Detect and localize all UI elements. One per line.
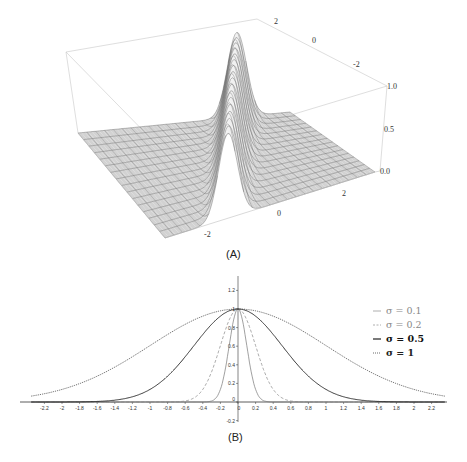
y-tick-label: -0.2	[226, 418, 235, 424]
panel-b-label: (B)	[228, 431, 243, 443]
y-tick-label: 0.2	[228, 380, 235, 386]
x-tick-label: -1.8	[75, 405, 84, 411]
svg-text:σ = 0.1: σ = 0.1	[386, 305, 422, 316]
x-tick-label: 2	[413, 405, 416, 411]
x-tick-label: -1	[148, 405, 153, 411]
panel-a-label: (A)	[226, 248, 241, 260]
y-tick-label: 1.2	[228, 287, 235, 293]
x-tick-label: -0.4	[198, 405, 207, 411]
x-tick-label: 0.6	[287, 405, 294, 411]
svg-text:σ = 0.5: σ = 0.5	[386, 333, 424, 344]
y-tick-label: 0	[312, 36, 316, 45]
y-tick-label: 0	[232, 396, 235, 402]
x-tick-label: -2	[60, 405, 65, 411]
x-tick-label: -1.2	[128, 405, 137, 411]
x-tick-label: 1.8	[393, 405, 400, 411]
legend-item-sigma-0.5: σ = 0.5	[373, 333, 424, 344]
z-tick-label: 0.0	[380, 167, 390, 176]
x-tick-label: 0	[277, 209, 281, 218]
y-axis-ticks: -0.200.20.40.60.811.2	[226, 287, 238, 423]
x-tick-label: 1.2	[340, 405, 347, 411]
figure: 2 0 -2 1.0 0.5 0.0 -2 0 2 (A) -2.2-2-1.8…	[0, 0, 467, 462]
x-tick-label: -2.2	[40, 405, 49, 411]
x-tick-label: 1.6	[375, 405, 382, 411]
legend: σ = 0.1 σ = 0.2 σ = 0.5 σ = 1	[373, 305, 424, 358]
y-tick-label: -2	[353, 60, 360, 69]
x-tick-label: -1.6	[93, 405, 102, 411]
x-tick-label: -2	[204, 230, 211, 239]
legend-item-sigma-0.1: σ = 0.1	[373, 305, 422, 316]
x-tick-label: 0.4	[270, 405, 277, 411]
gaussian-line-chart: -2.2-2-1.8-1.6-1.4-1.2-1-0.8-0.6-0.4-0.2…	[20, 276, 447, 424]
surface-ridge	[78, 32, 375, 238]
legend-item-sigma-0.2: σ = 0.2	[373, 319, 422, 330]
legend-item-sigma-1: σ = 1	[373, 347, 414, 358]
x-tick-label: -1.4	[110, 405, 119, 411]
x-tick-label: 0	[238, 405, 241, 411]
x-tick-label: 0.8	[305, 405, 312, 411]
y-tick-label: 2	[274, 17, 278, 26]
x-tick-label: -0.8	[163, 405, 172, 411]
x-tick-label: 2.2	[428, 405, 435, 411]
x-tick-label: -0.6	[181, 405, 190, 411]
x-tick-label: 1	[325, 405, 328, 411]
z-tick-label: 0.5	[384, 125, 394, 134]
x-tick-label: 2	[342, 189, 346, 198]
y-tick-label: 0.4	[228, 362, 235, 368]
x-axis-ticks: -2.2-2-1.8-1.6-1.4-1.2-1-0.8-0.6-0.4-0.2…	[40, 402, 435, 411]
surface-plot-3d: 2 0 -2 1.0 0.5 0.0 -2 0 2	[66, 17, 397, 239]
x-tick-label: 0.2	[252, 405, 259, 411]
x-tick-label: 1.4	[358, 405, 365, 411]
x-tick-label: -0.2	[216, 405, 225, 411]
z-tick-label: 1.0	[387, 82, 397, 91]
svg-text:σ = 0.2: σ = 0.2	[386, 319, 422, 330]
svg-text:σ = 1: σ = 1	[386, 347, 414, 358]
